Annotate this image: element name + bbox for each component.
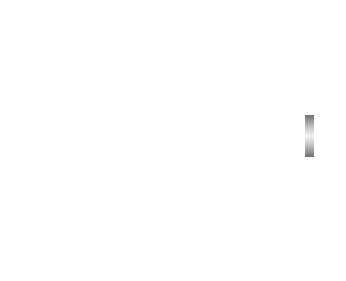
color-bar xyxy=(305,115,314,157)
correlation-heatmap xyxy=(0,0,346,281)
